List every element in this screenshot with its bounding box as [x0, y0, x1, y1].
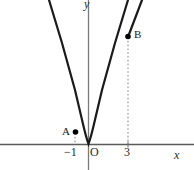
- point-a-label: A: [62, 126, 70, 137]
- x-axis-label: x: [174, 149, 179, 161]
- point-b-marker: [125, 34, 131, 40]
- parabola-figure: y x O −1 3 A B: [0, 0, 194, 170]
- x-tick-label-neg-one: −1: [64, 146, 77, 158]
- x-tick-label-three: 3: [124, 146, 130, 158]
- point-a-marker: [73, 129, 79, 135]
- point-b-label: B: [134, 29, 141, 40]
- origin-label: O: [90, 146, 99, 158]
- y-axis-label: y: [84, 0, 89, 10]
